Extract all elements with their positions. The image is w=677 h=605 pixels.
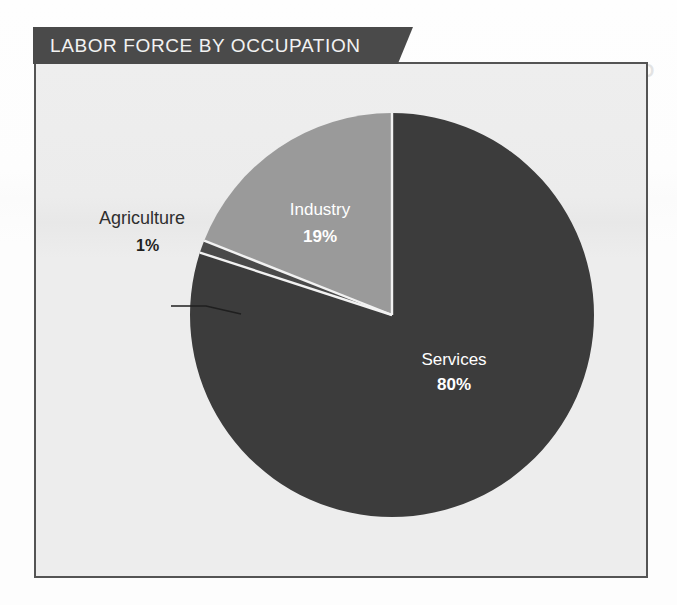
pie-chart-svg: Services 80% Industry 19% Agriculture 1% <box>36 64 650 580</box>
services-slice-value: 80% <box>437 375 471 394</box>
industry-slice-label: Industry <box>290 200 351 219</box>
page-title: LABOR FORCE BY OCCUPATION <box>50 35 361 57</box>
pie-chart: Services 80% Industry 19% Agriculture 1% <box>36 64 650 580</box>
industry-slice-value: 19% <box>303 227 337 246</box>
services-slice-label: Services <box>421 350 486 369</box>
chart-frame: Services 80% Industry 19% Agriculture 1% <box>34 62 648 578</box>
agriculture-callout-label: Agriculture <box>99 208 185 228</box>
chart-page: VOTES IN THE LOWER HOUSE Services 80% In… <box>0 0 677 605</box>
agriculture-callout-value: 1% <box>136 237 159 254</box>
title-banner: LABOR FORCE BY OCCUPATION <box>33 27 413 64</box>
